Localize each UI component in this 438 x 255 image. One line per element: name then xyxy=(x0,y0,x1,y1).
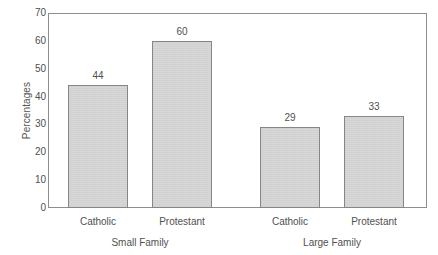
y-tick-label-0: 0 xyxy=(4,203,46,213)
y-tick-label-30: 30 xyxy=(4,119,46,129)
y-tick-label-70: 70 xyxy=(4,8,46,18)
y-axis-tick-labels: 70 60 50 40 30 20 10 0 xyxy=(0,13,46,208)
bar-value-label-2: 29 xyxy=(260,113,320,123)
x-category-label-large-protestant: Protestant xyxy=(334,216,414,228)
bar-value-label-3: 33 xyxy=(344,102,404,112)
bar-small-family-protestant[interactable] xyxy=(152,41,212,208)
y-tick-label-60: 60 xyxy=(4,36,46,46)
bar-large-family-catholic[interactable] xyxy=(260,127,320,208)
x-category-label-large-catholic: Catholic xyxy=(250,216,330,228)
x-category-label-small-catholic: Catholic xyxy=(58,216,138,228)
bar-chart: Percentages 70 60 50 40 30 20 10 0 44 60… xyxy=(0,0,438,255)
bar-value-label-1: 60 xyxy=(152,27,212,37)
x-group-label-small-family: Small Family xyxy=(60,237,220,249)
y-tick-label-10: 10 xyxy=(4,175,46,185)
y-tick-label-20: 20 xyxy=(4,147,46,157)
y-tick-label-40: 40 xyxy=(4,92,46,102)
bar-value-label-0: 44 xyxy=(68,71,128,81)
bar-large-family-protestant[interactable] xyxy=(344,116,404,208)
x-group-label-large-family: Large Family xyxy=(252,237,412,249)
y-tick-label-50: 50 xyxy=(4,64,46,74)
x-category-label-small-protestant: Protestant xyxy=(142,216,222,228)
bar-small-family-catholic[interactable] xyxy=(68,85,128,208)
